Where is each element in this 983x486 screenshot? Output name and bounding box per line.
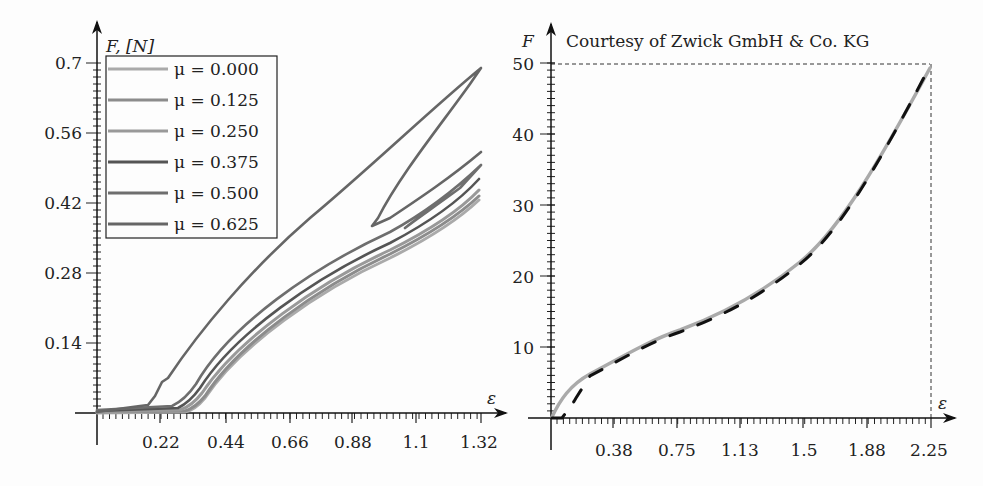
right-x-minor-ticks bbox=[557, 418, 925, 424]
left-x-tick-label: 0.22 bbox=[142, 432, 180, 452]
left-x-axis-title: ε bbox=[487, 388, 496, 408]
left-y-tick-label: 0.7 bbox=[55, 53, 82, 73]
right-x-tick-label: 1.5 bbox=[790, 440, 817, 460]
left-x-tick-label: 0.66 bbox=[271, 432, 309, 452]
legend-label: μ = 0.375 bbox=[174, 152, 259, 172]
right-y-tick-label: 50 bbox=[512, 54, 534, 74]
left-y-axis-title: F, [N] bbox=[105, 36, 154, 56]
left-x-major-ticks bbox=[160, 413, 481, 423]
left-x-tick-label: 0.88 bbox=[334, 432, 372, 452]
right-x-axis-title: ε bbox=[938, 393, 947, 413]
experiment-curve bbox=[552, 68, 930, 417]
legend: μ = 0.000 μ = 0.125 μ = 0.250 μ = 0.375 … bbox=[106, 56, 277, 238]
left-x-tick-label: 0.44 bbox=[207, 432, 245, 452]
right-y-tick-label: 20 bbox=[512, 267, 534, 287]
left-x-tick-label: 1.1 bbox=[402, 432, 429, 452]
right-x-tick-label: 0.38 bbox=[595, 440, 633, 460]
right-y-axis-title: F bbox=[521, 31, 535, 51]
legend-label: μ = 0.500 bbox=[174, 183, 259, 203]
left-y-tick-label: 0.28 bbox=[44, 263, 82, 283]
right-x-tick-label: 2.25 bbox=[910, 440, 948, 460]
right-chart: 50 40 30 20 10 0.38 0.75 1.13 1.5 1.88 2… bbox=[512, 24, 955, 460]
legend-label: μ = 0.000 bbox=[174, 59, 259, 79]
right-x-tick-label: 1.13 bbox=[721, 440, 759, 460]
legend-label: μ = 0.125 bbox=[174, 90, 259, 110]
legend-box bbox=[106, 56, 277, 238]
left-y-tick-label: 0.42 bbox=[44, 193, 82, 213]
right-x-tick-label: 0.75 bbox=[658, 440, 696, 460]
legend-label: μ = 0.625 bbox=[174, 214, 259, 234]
legend-label: μ = 0.250 bbox=[174, 121, 259, 141]
right-y-tick-label: 30 bbox=[512, 196, 534, 216]
figure: 0.7 0.56 0.42 0.28 0.14 0.22 0.44 0.66 0… bbox=[0, 0, 983, 486]
left-chart: 0.7 0.56 0.42 0.28 0.14 0.22 0.44 0.66 0… bbox=[44, 22, 506, 452]
left-y-tick-label: 0.14 bbox=[44, 333, 82, 353]
left-y-tick-label: 0.56 bbox=[44, 123, 82, 143]
right-y-tick-label: 10 bbox=[512, 338, 534, 358]
right-x-tick-label: 1.88 bbox=[848, 440, 886, 460]
courtesy-note: Courtesy of Zwick GmbH & Co. KG bbox=[566, 31, 869, 51]
right-y-tick-label: 40 bbox=[512, 125, 534, 145]
right-x-major-ticks bbox=[613, 418, 931, 428]
left-x-tick-label: 1.32 bbox=[460, 432, 498, 452]
